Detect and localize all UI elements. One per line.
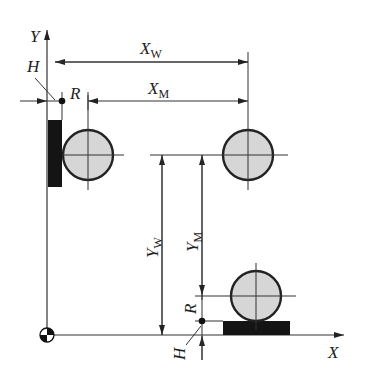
origin-symbol-icon xyxy=(40,328,54,342)
x-axis-label: X xyxy=(327,343,339,362)
h-bottom-label: H xyxy=(170,346,189,361)
top-reference-point xyxy=(59,98,66,105)
diagram-canvas: XW XM H R Y X YW YM R H xyxy=(0,0,367,380)
xw-label: XW xyxy=(139,39,162,61)
r-bottom-label: R xyxy=(181,303,200,315)
xm-label: XM xyxy=(147,79,169,101)
xm-dimension xyxy=(20,92,248,110)
h-top-leader xyxy=(35,78,55,100)
ym-label: YM xyxy=(183,232,205,252)
top-workpiece-circle xyxy=(150,52,288,190)
h-top-label: H xyxy=(26,57,41,76)
y-axis-label: Y xyxy=(30,27,41,46)
yw-label: YW xyxy=(143,237,165,258)
left-fixture-block xyxy=(48,120,62,187)
r-top-label: R xyxy=(69,84,81,103)
left-reference-circle xyxy=(62,95,124,190)
bottom-reference-point xyxy=(199,318,206,325)
bottom-workpiece-circle xyxy=(195,263,296,330)
